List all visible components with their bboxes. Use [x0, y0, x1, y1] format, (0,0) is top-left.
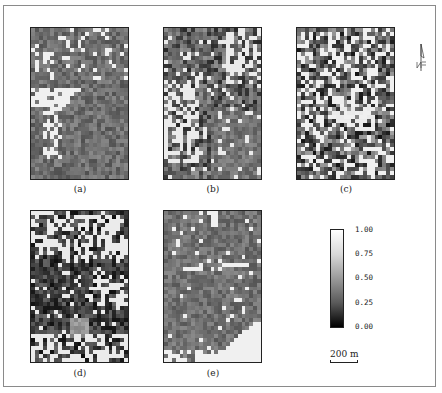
map-panel-c: [296, 27, 395, 180]
panel-label-e: (e): [193, 368, 233, 378]
panel-label-b: (b): [193, 184, 233, 194]
colorbar-tick-075: 0.75: [355, 249, 373, 258]
map-panel-d: [30, 210, 129, 363]
map-grid-d: [31, 211, 128, 362]
panel-label-a: (a): [60, 184, 100, 194]
panel-label-c: (c): [326, 184, 366, 194]
scale-bar: [330, 360, 358, 363]
scale-bar-label: 200 m: [330, 349, 359, 359]
map-panel-b: [163, 27, 262, 180]
north-arrow-icon: [414, 42, 428, 72]
map-grid-e: [164, 211, 261, 362]
map-grid-b: [164, 28, 261, 179]
map-grid-c: [297, 28, 394, 179]
map-grid-a: [31, 28, 128, 179]
map-panel-e: [163, 210, 262, 363]
panel-label-d: (d): [60, 368, 100, 378]
colorbar: [330, 229, 344, 328]
colorbar-tick-05: 0.50: [355, 273, 373, 282]
map-panel-a: [30, 27, 129, 180]
colorbar-tick-1: 1.00: [355, 225, 373, 234]
colorbar-tick-0: 0.00: [355, 322, 373, 331]
colorbar-tick-025: 0.25: [355, 298, 373, 307]
